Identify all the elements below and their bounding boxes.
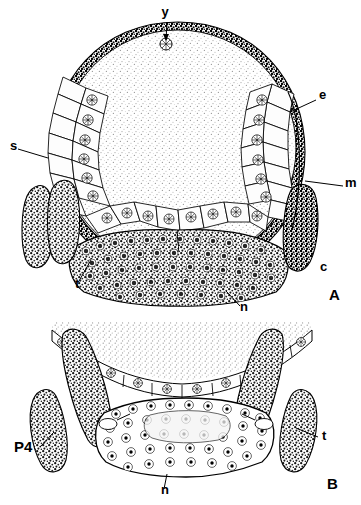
figure-root: y e m s c t n A: [0, 0, 361, 505]
germ-mass-lumen: [144, 411, 230, 443]
histology-figure-svg: y e m s c t n A: [0, 0, 361, 505]
label-c: c: [320, 259, 327, 274]
label-m: m: [345, 175, 357, 190]
label-y: y: [161, 4, 169, 19]
label-n-b: n: [161, 482, 169, 497]
label-t-b: t: [322, 428, 327, 443]
label-e: e: [319, 87, 326, 102]
label-p4: P4: [14, 438, 33, 455]
panel-label-a: A: [329, 286, 340, 303]
label-t-a: t: [75, 276, 80, 291]
panel-b-germ-cell-mass: [96, 398, 274, 477]
panel-a-germ-cell-mass: [69, 230, 288, 307]
trophocyte-lobe-inner: [48, 180, 80, 263]
label-s: s: [10, 138, 17, 153]
panel-label-b: B: [327, 475, 338, 492]
label-n-a: n: [240, 299, 248, 314]
